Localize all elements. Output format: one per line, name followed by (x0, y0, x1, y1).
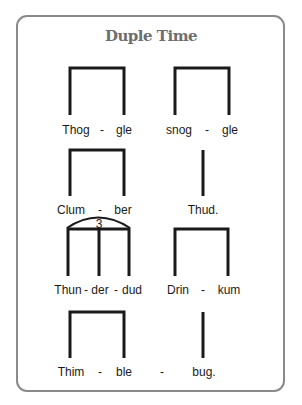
syllable: snog (166, 124, 192, 136)
syllable-hyphen: - (98, 204, 102, 216)
syllable: der (91, 284, 108, 296)
syllable: kum (218, 284, 241, 296)
syllable: gle (222, 124, 238, 136)
syllable-hyphen: - (205, 124, 209, 136)
syllable-hyphen: - (201, 284, 205, 296)
syllable: Thun (54, 284, 81, 296)
beamed-pair-icon (70, 150, 124, 196)
beamed-pair-icon (175, 229, 228, 276)
beamed-pair-icon (70, 312, 124, 358)
syllable: Drin (167, 284, 189, 296)
tuplet-number: 3 (96, 218, 103, 230)
syllable: Thud. (188, 204, 219, 216)
syllable: dud (122, 284, 142, 296)
syllable: Thog (62, 124, 89, 136)
syllable-hyphen: - (98, 366, 102, 378)
syllable-hyphen: - (160, 366, 164, 378)
syllable-hyphen: - (100, 124, 104, 136)
syllable: bug. (192, 366, 215, 378)
rhythm-notation (0, 0, 302, 405)
beamed-pair-icon (70, 68, 124, 115)
syllable: gle (116, 124, 132, 136)
triplet-beam-icon (68, 229, 129, 276)
beamed-pair-icon (175, 68, 229, 115)
syllable-hyphen: - (84, 284, 88, 296)
syllable-hyphen: - (114, 284, 118, 296)
syllable: Thim (58, 366, 85, 378)
syllable: ber (114, 204, 131, 216)
syllable: Clum (57, 204, 85, 216)
syllable: ble (116, 366, 132, 378)
